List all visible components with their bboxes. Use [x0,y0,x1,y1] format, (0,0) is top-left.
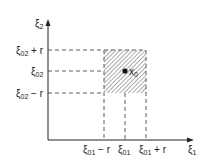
x-tick-lower: ξ01 − r [83,144,111,156]
x-axis-label: ξ1 [188,144,196,156]
diagram-canvas: x0 ξ2 ξ1 ξ02 + r ξ02 ξ02 − r ξ01 − r ξ01… [0,0,209,167]
y-tick-center: ξ02 [31,66,43,78]
y-axis-arrow-icon [46,19,51,26]
x-tick-upper: ξ01 + r [139,144,167,156]
y-axis-label: ξ2 [35,18,43,30]
x-tick-center: ξ01 [118,144,130,156]
y-tick-upper: ξ02 + r [16,45,44,57]
y-tick-lower: ξ02 − r [16,88,44,100]
x-axis-arrow-icon [187,138,194,143]
point-x0-marker [122,68,127,73]
